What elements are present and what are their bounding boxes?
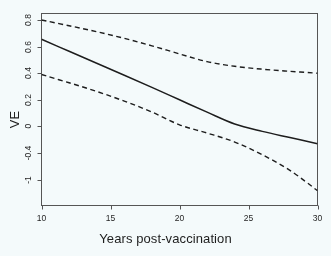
y-tick-label: 0.8: [23, 7, 33, 33]
x-tick-label: 25: [235, 213, 263, 223]
y-tick-label: 0.4: [23, 60, 33, 86]
x-tick-label: 30: [304, 213, 331, 223]
x-tick-label: 10: [28, 213, 56, 223]
y-axis-title: VE: [7, 100, 22, 140]
y-tick-label: 0: [23, 113, 33, 139]
x-tick-label: 20: [166, 213, 194, 223]
y-tick-label: 0.6: [23, 34, 33, 60]
y-tick-label: 0.2: [23, 87, 33, 113]
x-tick-label: 15: [97, 213, 125, 223]
chart-figure: Years post-vaccination VE 1015202530 0.8…: [0, 0, 331, 256]
x-axis-title: Years post-vaccination: [0, 231, 331, 246]
y-tick-label: -1: [23, 167, 33, 193]
y-tick-label: -0.4: [23, 140, 33, 166]
